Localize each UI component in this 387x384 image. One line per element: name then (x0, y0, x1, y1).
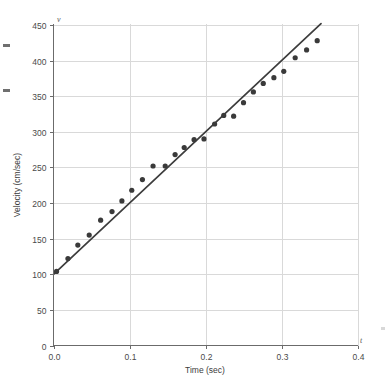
data-point (119, 198, 124, 203)
x-tick-label: 0.1 (125, 352, 137, 362)
y-tick-label: 50 (37, 306, 47, 316)
x-tick-label: 0.2 (201, 352, 213, 362)
y-tick-label: 0 (42, 342, 47, 352)
margin-mark-right (381, 327, 385, 330)
x-axis-variable-label: t (360, 336, 363, 345)
margin-mark-upper (3, 44, 10, 47)
data-point (54, 269, 59, 274)
data-point (109, 209, 114, 214)
velocity-time-chart: 050100150200250300350400450 0.00.10.20.3… (0, 0, 387, 384)
data-point (221, 113, 226, 118)
gridlines-group (54, 24, 359, 346)
y-tick-label: 350 (32, 92, 46, 102)
data-point (261, 81, 266, 86)
y-tick-group: 050100150200250300350400450 (32, 21, 53, 352)
y-tick-label: 300 (32, 128, 46, 138)
x-tick-label: 0.0 (49, 352, 61, 362)
data-point (129, 188, 134, 193)
data-point (173, 152, 178, 157)
data-point (281, 69, 286, 74)
data-points-group (54, 38, 320, 274)
data-point (140, 177, 145, 182)
data-point (98, 218, 103, 223)
y-tick-label: 100 (32, 270, 46, 280)
x-axis-title: Time (sec) (185, 365, 225, 375)
data-point (212, 121, 217, 126)
data-point (163, 163, 168, 168)
data-point (87, 233, 92, 238)
x-tick-label: 0.4 (353, 352, 365, 362)
data-point (241, 100, 246, 105)
y-axis-variable-label: v (57, 15, 61, 24)
data-point (271, 75, 276, 80)
data-point (182, 145, 187, 150)
y-tick-label: 450 (32, 21, 46, 31)
y-tick-label: 250 (32, 163, 46, 173)
data-point (251, 89, 256, 94)
data-point (201, 136, 206, 141)
data-point (315, 38, 320, 43)
y-tick-label: 150 (32, 235, 46, 245)
y-axis-title: Velocity (cm/sec) (12, 153, 22, 217)
x-tick-group: 0.00.10.20.30.4 (49, 346, 365, 362)
margin-mark-lower (3, 89, 10, 92)
x-tick-label: 0.3 (277, 352, 289, 362)
data-point (150, 163, 155, 168)
data-point (304, 47, 309, 52)
y-tick-label: 200 (32, 199, 46, 209)
data-point (65, 256, 70, 261)
data-point (293, 55, 298, 60)
chart-svg: 050100150200250300350400450 0.00.10.20.3… (0, 0, 387, 384)
data-point (192, 137, 197, 142)
y-tick-label: 400 (32, 57, 46, 67)
data-point (231, 114, 236, 119)
data-point (75, 242, 80, 247)
